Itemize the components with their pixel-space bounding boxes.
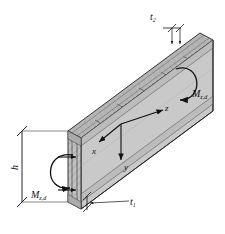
axis-label-z: z — [164, 103, 169, 113]
thickness-bottom-leader — [90, 201, 129, 203]
axis-label-y: y — [123, 162, 128, 172]
thickness-top-dimension: t2 — [150, 11, 184, 44]
thickness-bottom-label: t1 — [130, 196, 136, 208]
thickness-top-label: t2 — [150, 11, 156, 23]
axis-label-x: x — [91, 146, 96, 156]
beam-solid — [68, 33, 213, 209]
beam-diagram-svg: x y z Mz,d Mz,d — [0, 0, 225, 234]
beam-end-cross-section — [68, 131, 81, 209]
beam-front-face — [81, 40, 213, 209]
figure-canvas: x y z Mz,d Mz,d — [0, 0, 225, 234]
height-label: h — [9, 165, 20, 170]
moment-left-label: Mz,d — [30, 189, 47, 201]
